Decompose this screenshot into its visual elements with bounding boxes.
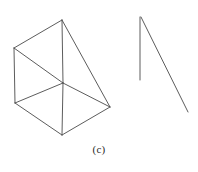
wireframe-prism — [14, 20, 110, 135]
edge-apex-to-upper-left — [14, 20, 62, 48]
edge-center-to-bottom — [62, 83, 63, 135]
edge-apex-to-center — [62, 20, 63, 83]
edge-diagonal-stroke — [141, 17, 188, 112]
edge-apex-to-right — [62, 20, 110, 107]
edge-lower-left-to-bottom — [15, 103, 62, 135]
edge-bottom-to-right — [62, 107, 110, 135]
edge-upper-left-to-lower-left — [14, 48, 15, 103]
figure-caption: (c) — [0, 142, 198, 156]
open-wedge — [140, 17, 188, 112]
edge-center-to-lower-left — [15, 83, 63, 103]
figure-panel: (c) — [0, 0, 198, 172]
edge-upper-left-to-center — [14, 48, 63, 83]
